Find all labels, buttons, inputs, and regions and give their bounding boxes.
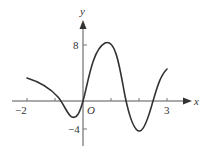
- x-axis-arrow-icon: [183, 98, 192, 105]
- y-tick-label-max: 8: [73, 39, 79, 51]
- function-graph: y x O −2 3 8 −4: [0, 0, 207, 147]
- x-tick-label-max: 3: [164, 104, 170, 116]
- x-axis-label: x: [193, 95, 199, 107]
- y-tick-label-min: −4: [68, 123, 80, 135]
- x-tick-label-min: −2: [15, 104, 27, 116]
- y-axis-arrow-icon: [80, 20, 87, 29]
- y-axis-label: y: [79, 5, 85, 17]
- origin-label: O: [87, 104, 95, 116]
- function-curve: [27, 42, 167, 131]
